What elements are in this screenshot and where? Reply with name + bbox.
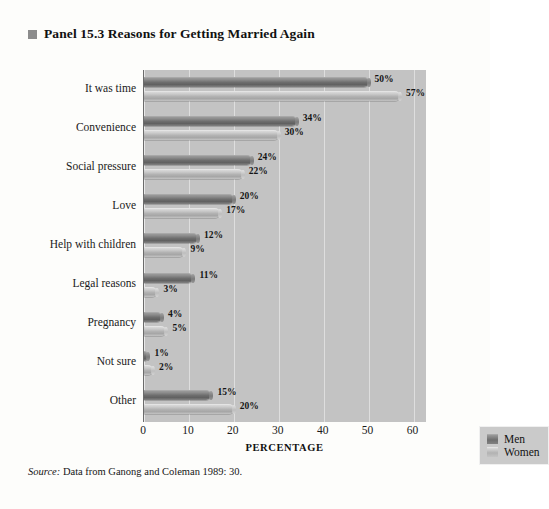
bar-group: 24%22% [144,148,426,187]
bar-rows: 50%57%34%30%24%22%20%17%12%9%11%3%4%5%1%… [144,70,426,422]
bar-end-cap [295,117,299,126]
bar-value-label: 30% [285,127,304,137]
legend-swatch-men [487,434,498,444]
bar-value-label: 2% [159,362,173,372]
bar-value-label: 15% [217,387,236,397]
bar-group: 4%5% [144,305,426,344]
square-marker-icon [28,30,37,39]
x-tick-label-20: 20 [227,424,239,436]
x-tick-label-40: 40 [317,424,329,436]
bar-rect [144,91,400,101]
bar-end-cap [232,195,236,204]
page-title: Panel 15.3 Reasons for Getting Married A… [44,26,315,42]
bar-rect [144,77,369,87]
y-axis-label-pregnancy: Pregnancy [0,316,136,328]
bar-value-label: 12% [204,230,223,240]
y-axis-category-labels: It was timeConvenienceSocial pressureLov… [0,70,136,422]
bar-group: 1%2% [144,344,426,383]
y-axis-label-love: Love [0,199,136,211]
bar-end-cap [160,313,164,322]
y-axis-label-not-sure: Not sure [0,355,136,367]
source-note: Source: Data from Ganong and Coleman 198… [28,466,242,477]
bar-group: 20%17% [144,187,426,226]
x-tick-label-30: 30 [272,424,284,436]
bar-end-cap [151,366,155,375]
bar-value-label: 9% [190,244,204,254]
bar-value-label: 20% [240,401,259,411]
legend-item: Men [487,432,539,445]
y-axis-label-social-pressure: Social pressure [0,160,136,172]
bar-rect [144,287,157,297]
bar-value-label: 3% [163,284,177,294]
bar-value-label: 17% [226,205,245,215]
bar-rect [144,404,234,414]
bar-value-label: 50% [375,74,394,84]
x-tick-label-60: 60 [407,424,419,436]
x-tick-label-50: 50 [362,424,374,436]
bar-end-cap [367,78,371,87]
bar-rect [144,312,162,322]
bar-value-label: 22% [249,166,268,176]
x-tick-label-10: 10 [182,424,194,436]
y-axis-label-legal-reasons: Legal reasons [0,277,136,289]
bar-group: 50%57% [144,70,426,109]
bar-rect [144,169,243,179]
bar-rect [144,130,279,140]
bar-end-cap [155,288,159,297]
bar-end-cap [196,234,200,243]
bar-value-label: 1% [154,348,168,358]
legend-item: Women [487,445,539,458]
x-tick-label-0: 0 [140,424,146,436]
bar-rect [144,208,220,218]
bar-value-label: 11% [199,270,217,280]
bar-rect [144,326,166,336]
bar-end-cap [146,352,150,361]
bar-value-label: 5% [172,323,186,333]
legend-label: Men [504,433,525,445]
bar-rect [144,351,148,361]
x-axis-ticks: 0102030405060 [143,424,426,442]
y-axis-label-convenience: Convenience [0,121,136,133]
bar-value-label: 57% [406,88,425,98]
legend-swatch-women [487,447,498,457]
bar-end-cap [182,248,186,257]
bar-group: 11%3% [144,266,426,305]
x-axis-title: PERCENTAGE [143,442,426,453]
bar-end-cap [250,156,254,165]
chart-legend: MenWomen [479,426,549,465]
y-axis-label-help-with-children: Help with children [0,238,136,250]
bar-end-cap [241,170,245,179]
bar-rect [144,194,234,204]
bar-rect [144,247,184,257]
chart-plot-area: 50%57%34%30%24%22%20%17%12%9%11%3%4%5%1%… [143,70,426,422]
bar-end-cap [232,405,236,414]
bar-end-cap [191,274,195,283]
bar-end-cap [218,209,222,218]
bar-rect [144,365,153,375]
bar-rect [144,233,198,243]
y-axis-label-it-was-time: It was time [0,82,136,94]
bar-end-cap [209,391,213,400]
panel-title-row: Panel 15.3 Reasons for Getting Married A… [28,26,315,42]
bar-value-label: 4% [168,309,182,319]
bar-value-label: 24% [258,152,277,162]
bar-rect [144,116,297,126]
bar-value-label: 20% [240,191,259,201]
bar-rect [144,273,193,283]
bar-end-cap [164,327,168,336]
bar-group: 12%9% [144,226,426,265]
bar-group: 15%20% [144,383,426,422]
bar-rect [144,155,252,165]
bar-end-cap [398,92,402,101]
source-text: Data from Ganong and Coleman 1989: 30. [60,466,242,477]
bar-group: 34%30% [144,109,426,148]
bar-end-cap [277,131,281,140]
y-axis-label-other: Other [0,394,136,406]
bar-value-label: 34% [303,113,322,123]
legend-label: Women [504,446,539,458]
bar-rect [144,390,211,400]
source-label: Source: [28,466,60,477]
